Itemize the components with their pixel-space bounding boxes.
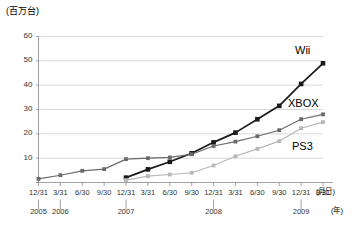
x-tick-label: 12/31 xyxy=(204,188,223,197)
y-tick-label: 60 xyxy=(11,31,33,40)
series-label-wii: Wii xyxy=(295,44,310,56)
year-label: 2006 xyxy=(52,207,69,216)
data-series-group xyxy=(37,61,326,182)
x-tick-label: 3/31 xyxy=(228,188,243,197)
x-tick-label: 3/31 xyxy=(53,188,68,197)
x-tick-label: 9/30 xyxy=(97,188,112,197)
y-tick-label: 10 xyxy=(11,153,33,162)
series-label-xbox: XBOX xyxy=(288,97,319,109)
year-label: 2007 xyxy=(118,207,135,216)
x-tick-label: 6/30 xyxy=(75,188,90,197)
x-tick-label: 6/30 xyxy=(250,188,265,197)
x-tick-label: 12/31 xyxy=(292,188,311,197)
x-tick-label: 9/30 xyxy=(272,188,287,197)
x-axis-caption-monthday: (月日) xyxy=(316,185,335,196)
year-tick-marks-group xyxy=(39,200,302,210)
x-tick-label: 12/31 xyxy=(29,188,48,197)
y-tick-label: 40 xyxy=(11,80,33,89)
x-tick-label: 9/30 xyxy=(184,188,199,197)
year-label: 2008 xyxy=(205,207,222,216)
year-label: 2005 xyxy=(30,207,47,216)
x-tick-label: 3/31 xyxy=(141,188,156,197)
series-label-ps3: PS3 xyxy=(292,140,313,152)
chart-container: (百万台) 102030405060 12/313/316/309/3012/3… xyxy=(0,0,356,228)
y-tick-label: 30 xyxy=(11,104,33,113)
year-label: 2009 xyxy=(293,207,310,216)
x-axis-caption-year: (年) xyxy=(331,204,343,215)
x-tick-label: 12/31 xyxy=(117,188,136,197)
x-tick-label: 6/30 xyxy=(162,188,177,197)
y-tick-label: 20 xyxy=(11,128,33,137)
y-tick-label: 50 xyxy=(11,55,33,64)
x-tick-marks-group xyxy=(39,183,324,187)
